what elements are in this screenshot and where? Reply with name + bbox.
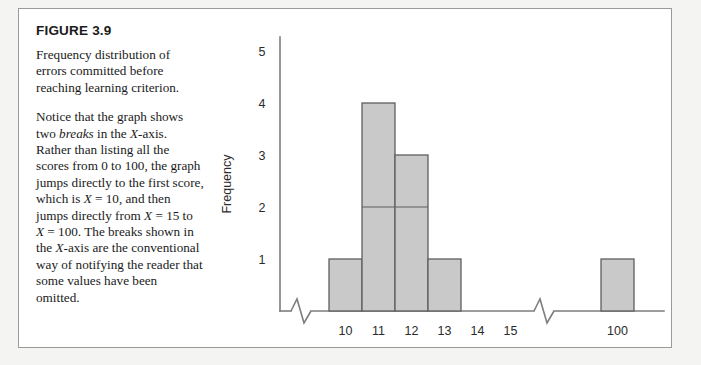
x-tick-label: 14 bbox=[471, 324, 485, 338]
bar-x12 bbox=[395, 155, 428, 311]
caption-math-variable: X bbox=[144, 208, 152, 223]
x-axis-break-left-icon bbox=[291, 299, 311, 323]
y-tick-label: 1 bbox=[259, 253, 266, 267]
bar-x13 bbox=[428, 259, 461, 311]
chart-svg: Frequency 1 2 3 4 5 bbox=[204, 9, 673, 349]
figure-number-label: FIGURE 3.9 bbox=[36, 23, 204, 38]
y-axis-title: Frequency bbox=[220, 154, 234, 214]
x-axis-break-right-icon bbox=[534, 299, 554, 323]
caption-math-variable: X bbox=[84, 191, 92, 206]
y-tick-label: 2 bbox=[259, 201, 266, 215]
bar-group bbox=[329, 103, 634, 311]
caption-text-segment: in the bbox=[94, 126, 130, 141]
figure-caption-paragraph-1: Frequency distribution of errors committ… bbox=[36, 47, 204, 96]
x-tick-label: 10 bbox=[339, 324, 353, 338]
figure-caption-paragraph-2: Notice that the graph shows two breaks i… bbox=[36, 109, 204, 306]
caption-math-variable: X bbox=[36, 224, 44, 239]
y-axis-tick-labels: 1 2 3 4 5 bbox=[259, 45, 266, 267]
frequency-distribution-chart: Frequency 1 2 3 4 5 bbox=[204, 9, 673, 349]
x-axis-tick-labels: 10 11 12 13 14 15 100 bbox=[339, 324, 628, 338]
figure-frame: FIGURE 3.9 Frequency distribution of err… bbox=[18, 8, 672, 348]
y-tick-label: 5 bbox=[259, 45, 266, 59]
bar-x10 bbox=[329, 259, 362, 311]
caption-math-variable: X bbox=[130, 126, 138, 141]
caption-text-segment: = 15 to bbox=[152, 208, 193, 223]
x-tick-label: 100 bbox=[607, 324, 628, 338]
bar-x100 bbox=[601, 259, 634, 311]
x-tick-label: 12 bbox=[405, 324, 419, 338]
x-tick-label: 15 bbox=[504, 324, 518, 338]
y-tick-label: 3 bbox=[259, 149, 266, 163]
caption-emphasis-breaks: breaks bbox=[59, 126, 94, 141]
x-tick-label: 11 bbox=[372, 324, 385, 338]
x-tick-label: 13 bbox=[438, 324, 452, 338]
y-tick-label: 4 bbox=[259, 97, 266, 111]
figure-caption-column: FIGURE 3.9 Frequency distribution of err… bbox=[36, 23, 204, 319]
